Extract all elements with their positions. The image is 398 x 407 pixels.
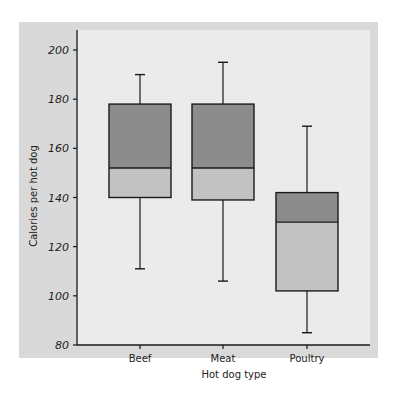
y-tick-label: 140 xyxy=(48,192,69,205)
y-tick-label: 80 xyxy=(55,339,69,352)
box-plot-chart: 80100120140160180200 BeefMeatPoultry Hot… xyxy=(0,0,398,407)
x-tick-label-poultry: Poultry xyxy=(290,353,325,364)
box-poultry xyxy=(276,126,338,333)
y-tick-label: 180 xyxy=(48,93,69,106)
x-axis: BeefMeatPoultry xyxy=(77,345,370,364)
y-tick-label: 160 xyxy=(48,142,69,155)
box-meat xyxy=(192,62,254,281)
y-tick-label: 100 xyxy=(48,290,69,303)
x-axis-title: Hot dog type xyxy=(201,369,266,380)
y-axis-title: Calories per hot dog xyxy=(28,145,39,247)
y-tick-label: 200 xyxy=(48,44,69,57)
x-tick-label-meat: Meat xyxy=(211,353,236,364)
x-tick-label-beef: Beef xyxy=(129,353,152,364)
boxes xyxy=(109,62,338,332)
y-axis: 80100120140160180200 xyxy=(48,30,77,352)
y-tick-label: 120 xyxy=(48,241,69,254)
box-beef xyxy=(109,75,171,269)
